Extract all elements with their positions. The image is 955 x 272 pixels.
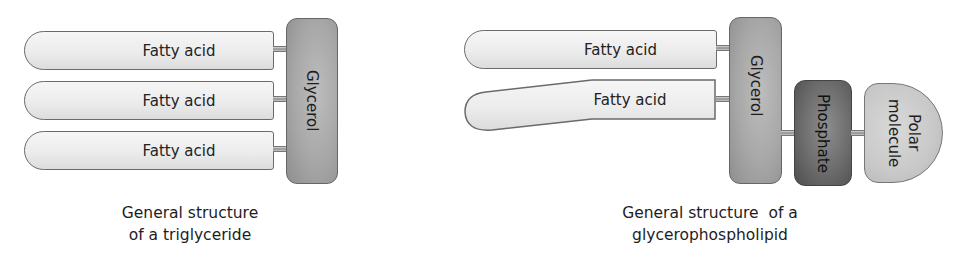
phosphate-group: Phosphate	[794, 80, 852, 186]
fatty-acid-chain-3: Fatty acid	[24, 131, 274, 170]
caption-line-1: General structure of a	[585, 202, 835, 224]
triglyceride-caption: General structure of a triglyceride	[80, 202, 300, 246]
fatty-acid-label: Fatty acid	[584, 41, 657, 59]
polar-label-line-2: molecule	[885, 99, 903, 167]
caption-line-2: of a triglyceride	[80, 224, 300, 246]
glycerol-label: Glycerol	[303, 70, 321, 131]
fatty-acid-label: Fatty acid	[594, 91, 667, 109]
ester-bond-2	[716, 96, 730, 102]
phosphodiester-bond	[781, 130, 795, 136]
glycerol-label: Glycerol	[747, 55, 765, 116]
glycerol-backbone: Glycerol	[729, 17, 782, 184]
fatty-acid-chain-2: Fatty acid	[24, 81, 274, 120]
fatty-acid-label: Fatty acid	[143, 92, 216, 110]
ester-bond-2	[273, 96, 287, 102]
glycerol-backbone: Glycerol	[286, 18, 338, 184]
polar-molecule-label: Polar molecule	[884, 99, 924, 167]
glycerophospholipid-caption: General structure of a glycerophospholip…	[585, 202, 835, 246]
polar-label-line-1: Polar	[905, 114, 923, 151]
fatty-acid-label: Fatty acid	[143, 42, 216, 60]
phosphate-label: Phosphate	[814, 94, 832, 173]
ester-bond-1	[273, 46, 287, 52]
fatty-acid-2-label-wrap: Fatty acid	[560, 80, 700, 119]
fatty-acid-label: Fatty acid	[143, 142, 216, 160]
caption-line-1: General structure	[80, 202, 300, 224]
fatty-acid-chain-1: Fatty acid	[464, 30, 717, 69]
fatty-acid-chain-1: Fatty acid	[24, 31, 274, 70]
ester-bond-3	[273, 146, 287, 152]
caption-line-2: glycerophospholipid	[585, 224, 835, 246]
polar-head-bond	[851, 130, 865, 136]
ester-bond-1	[716, 45, 730, 51]
polar-molecule-head: Polar molecule	[864, 83, 943, 183]
